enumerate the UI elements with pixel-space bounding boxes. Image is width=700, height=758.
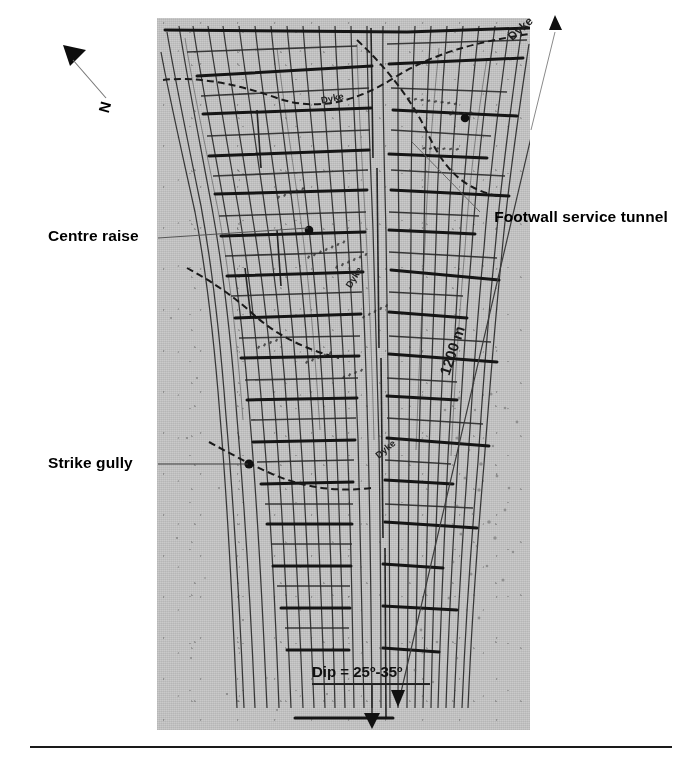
dip-legend: Dip = 25º-35º — [312, 663, 432, 730]
reef-contour-lines — [161, 26, 529, 708]
strike-gully-dot-icon — [244, 459, 253, 468]
plate-speckles — [170, 317, 328, 711]
footwall-service-tunnel-label: Footwall service tunnel — [486, 207, 676, 226]
bottom-divider-rule — [30, 746, 672, 748]
north-arrow-icon — [63, 45, 106, 98]
dip-legend-label: Dip = 25º-35º — [312, 663, 432, 680]
strike-gully-label: Strike gully — [48, 453, 133, 472]
footwall-tunnel-dot-icon — [461, 114, 470, 123]
centre-raise-dot-icon — [305, 226, 314, 235]
mine-plan-linework — [157, 18, 530, 730]
centre-raise-label: Centre raise — [48, 226, 139, 245]
dip-direction-arrow-icon — [312, 685, 432, 730]
north-label: N — [95, 100, 116, 115]
scale-arrow-up-icon — [549, 15, 562, 30]
scale-line-upper — [531, 32, 555, 130]
scale-bar-1200m — [398, 35, 530, 705]
mine-plan-image: Dip = 25º-35º Dyke Dyke Dyke — [157, 18, 530, 730]
